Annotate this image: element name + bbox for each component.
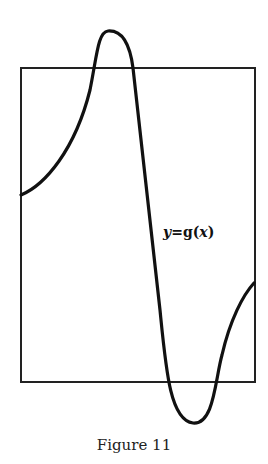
curve-label: y=g(x): [163, 224, 214, 240]
figure: y=g(x) Figure 11: [0, 0, 268, 464]
figure-caption: Figure 11: [0, 436, 268, 454]
label-y: y: [163, 224, 171, 240]
curve-g-of-x: [21, 31, 254, 423]
label-eq: =: [171, 224, 183, 240]
label-fn: g(: [183, 224, 199, 240]
label-x: x: [199, 224, 207, 240]
graph-canvas: [0, 0, 268, 464]
label-close: ): [208, 224, 215, 240]
